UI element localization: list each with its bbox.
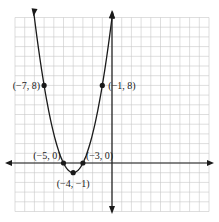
point-label: (−1, 8)	[108, 80, 135, 92]
data-point	[71, 170, 76, 175]
x-axis-left-arrow-icon	[5, 160, 12, 166]
data-point	[42, 83, 47, 88]
parabola-chart: (−7, 8)(−1, 8)(−5, 0)(−3, 0)(−4, −1)	[0, 0, 219, 222]
x-axis-right-arrow-icon	[207, 160, 214, 166]
point-label: (−7, 8)	[13, 80, 40, 92]
data-point	[100, 83, 105, 88]
labeled-points: (−7, 8)(−1, 8)(−5, 0)(−3, 0)(−4, −1)	[13, 80, 136, 190]
point-label: (−3, 0)	[86, 150, 113, 162]
point-label: (−4, −1)	[57, 178, 90, 190]
point-label: (−5, 0)	[33, 150, 60, 162]
y-axis-bottom-arrow-icon	[109, 206, 115, 214]
data-point	[61, 160, 66, 165]
data-point	[80, 160, 85, 165]
